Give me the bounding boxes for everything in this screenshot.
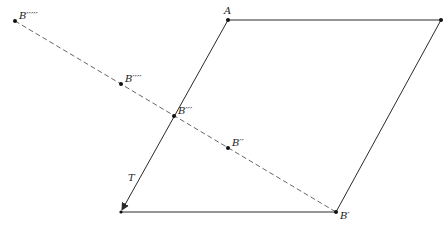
point-bottom-left (119, 210, 122, 213)
point-a (226, 18, 230, 22)
point-top-right (439, 18, 443, 22)
point-b-quad-prime (119, 82, 123, 86)
label-b-double-prime: B′′ (231, 137, 245, 148)
geometry-diagram: A T B′ B′′ B′′′ B′′′′ B′′′′′ (0, 0, 448, 225)
edge-right (336, 20, 441, 212)
label-t: T (128, 172, 136, 183)
point-b-prime (334, 210, 338, 214)
label-a: A (223, 5, 231, 16)
point-b-quint-prime (13, 19, 17, 23)
point-b-triple-prime (172, 114, 176, 118)
label-b-quad-prime: B′′′′ (124, 73, 142, 84)
label-b-triple-prime: B′′′ (177, 105, 193, 116)
label-b-prime: B′ (339, 210, 350, 221)
point-b-double-prime (226, 146, 230, 150)
label-b-quint-prime: B′′′′′ (18, 10, 38, 21)
